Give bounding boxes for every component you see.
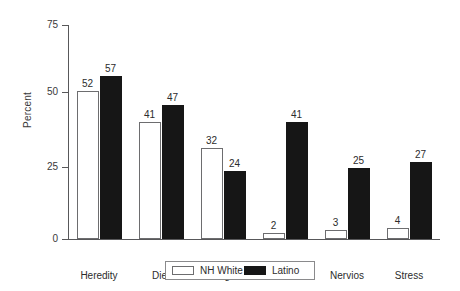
bar-group: 241 — [254, 25, 316, 239]
bar-value-label: 24 — [219, 159, 251, 169]
chart-legend: NH White Latino — [165, 261, 315, 280]
bar-value-label: 32 — [196, 136, 228, 146]
bar-susto-latino — [286, 122, 308, 239]
y-axis-title: Percent — [23, 75, 33, 145]
category-label-heredity: Heredity — [68, 270, 130, 281]
bar-value-label: 25 — [343, 156, 375, 166]
bar-susto-nh-white — [263, 233, 285, 239]
bar-group: 3224 — [192, 25, 254, 239]
y-tick-label-75: 75 — [36, 20, 58, 30]
x-axis-line — [68, 239, 440, 240]
bar-heredity-latino — [100, 76, 122, 239]
bar-nervios-latino — [348, 168, 370, 239]
y-tick-label-25: 25 — [36, 162, 58, 172]
bar-value-label: 57 — [95, 64, 127, 74]
y-tick-label-50: 50 — [36, 87, 58, 97]
plot-area: 5257Heredity4147Diet3224Weight241Susto32… — [68, 25, 440, 239]
bar-group: 4147 — [130, 25, 192, 239]
bar-stress-nh-white — [387, 228, 409, 239]
bar-chart: 75 50 25 0 Percent 5257Heredity4147Diet3… — [0, 0, 460, 291]
legend-item-latino: Latino — [244, 262, 299, 279]
category-label-stress: Stress — [378, 270, 440, 281]
y-tick-0 — [62, 239, 68, 240]
legend-label-nh-white: NH White — [200, 266, 243, 276]
bar-nervios-nh-white — [325, 230, 347, 239]
bar-heredity-nh-white — [77, 91, 99, 239]
bar-group: 5257 — [68, 25, 130, 239]
legend-swatch-nh-white — [172, 266, 194, 275]
category-label-nervios: Nervios — [316, 270, 378, 281]
legend-item-nh-white: NH White — [172, 262, 243, 279]
legend-label-latino: Latino — [272, 266, 299, 276]
bar-diet-nh-white — [139, 122, 161, 239]
bar-weight-latino — [224, 171, 246, 239]
bar-diet-latino — [162, 105, 184, 239]
bar-value-label: 47 — [157, 93, 189, 103]
bar-value-label: 41 — [281, 110, 313, 120]
bar-group: 427 — [378, 25, 440, 239]
legend-swatch-latino — [244, 266, 266, 275]
y-tick-label-0: 0 — [36, 234, 58, 244]
bar-group: 325 — [316, 25, 378, 239]
bar-value-label: 27 — [405, 150, 437, 160]
bar-stress-latino — [410, 162, 432, 239]
